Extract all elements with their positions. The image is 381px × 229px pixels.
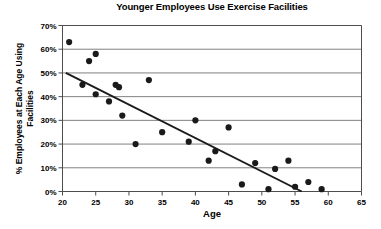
y-tick-label: 30% [40, 116, 56, 125]
y-tick-label: 50% [40, 69, 56, 78]
y-tick-label: 20% [40, 140, 56, 149]
y-tick-label: 70% [40, 22, 56, 31]
data-point [226, 124, 232, 130]
x-tick-label: 60 [324, 198, 333, 207]
x-tick-label: 20 [58, 198, 67, 207]
data-point [132, 141, 138, 147]
data-point [206, 158, 212, 164]
data-point [285, 158, 291, 164]
data-point [239, 181, 245, 187]
x-tick-label: 50 [257, 198, 266, 207]
plot-frame [63, 26, 362, 192]
chart-figure: Younger Employees Use Exercise Facilitie… [0, 0, 381, 229]
x-tick-label: 30 [124, 198, 133, 207]
data-point [66, 39, 72, 45]
trend-line [66, 73, 302, 192]
data-point [292, 184, 298, 190]
data-point [305, 179, 311, 185]
x-tick-label: 35 [158, 198, 167, 207]
x-tick-label: 55 [291, 198, 300, 207]
data-point [186, 139, 192, 145]
data-point [192, 117, 198, 123]
data-point [119, 113, 125, 119]
data-point [319, 186, 325, 192]
y-tick-label: 0% [45, 188, 57, 197]
y-axis-ticks: 0%10%20%30%40%50%60%70% [40, 22, 62, 197]
data-point [86, 58, 92, 64]
data-point [93, 51, 99, 57]
data-point [79, 82, 85, 88]
data-point [146, 77, 152, 83]
data-point [159, 129, 165, 135]
data-point [252, 160, 258, 166]
data-point [265, 186, 271, 192]
data-points [66, 39, 325, 192]
trend-line-segment [66, 73, 302, 192]
x-tick-label: 40 [191, 198, 200, 207]
data-point [272, 166, 278, 172]
x-tick-label: 45 [224, 198, 233, 207]
x-tick-label: 65 [357, 198, 366, 207]
y-tick-label: 40% [40, 93, 56, 102]
scatter-plot: 20253035404550556065 0%10%20%30%40%50%60… [0, 0, 381, 229]
data-point [106, 98, 112, 104]
data-point [212, 148, 218, 154]
y-tick-label: 60% [40, 45, 56, 54]
data-point [93, 91, 99, 97]
data-point [116, 84, 122, 90]
y-tick-label: 10% [40, 164, 56, 173]
x-axis-ticks: 20253035404550556065 [58, 192, 366, 207]
x-tick-label: 25 [91, 198, 100, 207]
